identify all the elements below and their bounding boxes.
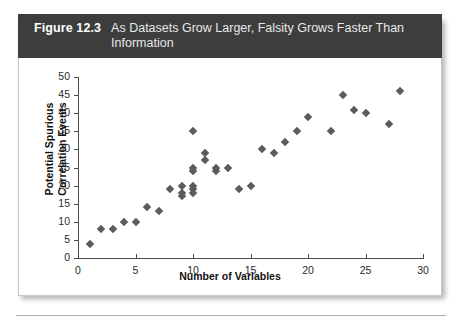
data-point	[246, 181, 254, 189]
y-axis-tick	[74, 204, 78, 205]
data-point	[154, 207, 162, 215]
y-axis-tick	[74, 149, 78, 150]
data-point	[304, 113, 312, 121]
x-axis-tick	[78, 254, 79, 258]
figure-number-label: Figure 12.3	[34, 21, 111, 36]
y-axis-tick	[74, 222, 78, 223]
data-point	[85, 239, 93, 247]
figure-caption-bar: Figure 12.3 As Datasets Grow Larger, Fal…	[18, 14, 442, 58]
plot-surface: 05101520253035404550051015202530	[18, 58, 442, 296]
data-point	[292, 127, 300, 135]
figure-container: Figure 12.3 As Datasets Grow Larger, Fal…	[0, 0, 461, 326]
y-axis-tick-label: 0	[48, 251, 70, 263]
y-axis-tick	[74, 240, 78, 241]
y-axis-tick	[74, 95, 78, 96]
data-point	[258, 145, 266, 153]
y-axis-tick	[74, 77, 78, 78]
data-point	[166, 185, 174, 193]
x-axis-title: Number of Variables	[18, 270, 442, 282]
data-point	[396, 87, 404, 95]
scatter-chart: 05101520253035404550051015202530 Number …	[18, 58, 442, 296]
y-axis-tick	[74, 258, 78, 259]
bottom-divider	[16, 315, 446, 316]
data-point	[200, 156, 208, 164]
data-point	[189, 127, 197, 135]
y-axis-line	[78, 77, 79, 259]
data-point	[338, 91, 346, 99]
y-axis-tick	[74, 113, 78, 114]
data-point	[143, 203, 151, 211]
data-point	[120, 218, 128, 226]
x-axis-tick	[423, 254, 424, 258]
x-axis-line	[78, 258, 424, 259]
x-axis-tick	[308, 254, 309, 258]
data-point	[177, 192, 185, 200]
data-point	[131, 218, 139, 226]
data-point	[269, 149, 277, 157]
y-axis-tick	[74, 186, 78, 187]
x-axis-tick	[251, 254, 252, 258]
data-point	[235, 185, 243, 193]
y-axis-tick	[74, 131, 78, 132]
data-point	[384, 120, 392, 128]
y-axis-tick	[74, 168, 78, 169]
x-axis-tick	[366, 254, 367, 258]
data-point	[97, 225, 105, 233]
data-point	[223, 163, 231, 171]
data-point	[361, 109, 369, 117]
x-axis-tick	[136, 254, 137, 258]
figure-caption-text: As Datasets Grow Larger, Falsity Grows F…	[111, 21, 426, 51]
data-point	[281, 138, 289, 146]
data-point	[350, 105, 358, 113]
data-point	[108, 225, 116, 233]
y-axis-title: Potential SpuriousCorrelation Events	[43, 59, 69, 239]
data-point	[327, 127, 335, 135]
x-axis-tick	[193, 254, 194, 258]
